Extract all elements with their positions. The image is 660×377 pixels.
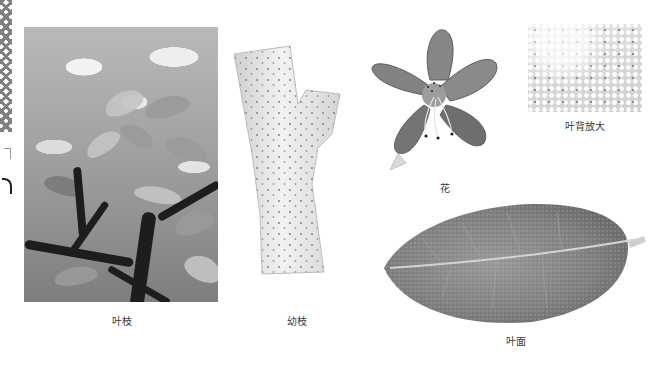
- young-twig-photo: [232, 44, 342, 276]
- caption-leaf-back-magnified: 叶背放大: [565, 118, 605, 133]
- edge-zigzag-decoration: [0, 0, 12, 132]
- leaf-shape: [82, 126, 123, 163]
- caption-leaf-upper: 叶面: [506, 333, 526, 348]
- leaf-shape: [117, 119, 157, 153]
- leaf-shape: [53, 263, 99, 288]
- leaf-shape: [101, 85, 147, 122]
- edge-mark: [4, 148, 11, 159]
- caption-leaf-branch: 叶枝: [112, 313, 132, 328]
- leaf-shape: [142, 91, 192, 122]
- leaf-shape: [181, 250, 218, 288]
- flower-photo: [368, 25, 503, 175]
- leaf-back-magnified-photo: [528, 24, 642, 112]
- caption-young-twig: 幼枝: [287, 313, 307, 328]
- leaf-branch-photo: [24, 27, 218, 302]
- twig-illustration: [232, 44, 342, 276]
- edge-mark: [2, 178, 12, 194]
- caption-flower: 花: [440, 180, 450, 195]
- leaf-shape: [162, 132, 210, 166]
- leaf-illustration: [382, 198, 650, 328]
- branch-twig: [69, 200, 109, 253]
- flower-illustration: [368, 25, 503, 175]
- leaf-upper-photo: [382, 198, 650, 328]
